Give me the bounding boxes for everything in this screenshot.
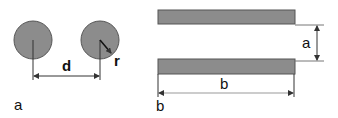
width-label: b [220, 75, 228, 92]
gap-label: a [302, 34, 311, 51]
conductor-geometry-diagram: d r a a b b [0, 0, 338, 118]
panel-a: d r a [14, 21, 120, 113]
panel-b: a b b [156, 10, 324, 114]
top-plate [158, 10, 295, 24]
bottom-plate [158, 59, 295, 74]
radius-label: r [114, 52, 120, 69]
panel-a-label: a [14, 96, 23, 113]
distance-label: d [62, 57, 71, 74]
panel-b-label: b [156, 97, 164, 114]
